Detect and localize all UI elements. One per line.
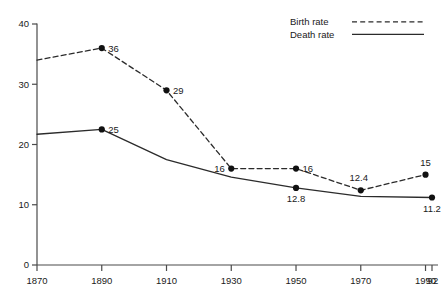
data-point-marker[interactable] — [429, 194, 435, 200]
y-tick-label: 30 — [18, 79, 29, 90]
data-point-label: 16 — [303, 163, 314, 174]
line-chart: 010203040 1870189019101930195019701990'9… — [0, 0, 448, 306]
x-tick-label: 1870 — [26, 275, 47, 286]
x-axis: 1870189019101930195019701990'92 — [26, 265, 438, 286]
x-tick-label: 1910 — [156, 275, 177, 286]
data-point-marker[interactable] — [99, 45, 105, 51]
x-tick-label: '92 — [426, 275, 438, 286]
chart-legend: Birth rateDeath rate — [290, 16, 424, 40]
data-labels-layer: 3629161612.4152512.811.2 — [108, 43, 441, 214]
data-point-label: 29 — [173, 85, 184, 96]
legend-label-death-rate: Death rate — [290, 29, 334, 40]
data-point-label: 36 — [108, 43, 119, 54]
data-point-label: 16 — [214, 163, 225, 174]
data-point-marker[interactable] — [99, 126, 105, 132]
data-point-label: 12.4 — [350, 172, 369, 183]
y-tick-label: 20 — [18, 139, 29, 150]
data-point-label: 25 — [108, 124, 119, 135]
legend-label-birth-rate: Birth rate — [290, 16, 329, 27]
y-axis: 010203040 — [18, 18, 37, 270]
series-layer — [37, 45, 435, 201]
data-point-marker[interactable] — [163, 87, 169, 93]
x-tick-label: 1970 — [350, 275, 371, 286]
x-tick-label: 1930 — [221, 275, 242, 286]
x-tick-label: 1950 — [285, 275, 306, 286]
data-point-marker[interactable] — [422, 172, 428, 178]
data-point-marker[interactable] — [228, 166, 234, 172]
data-point-marker[interactable] — [293, 185, 299, 191]
chart-canvas: 010203040 1870189019101930195019701990'9… — [0, 0, 448, 306]
y-tick-label: 0 — [24, 259, 29, 270]
data-point-label: 15 — [420, 157, 431, 168]
data-point-marker[interactable] — [358, 187, 364, 193]
data-point-marker[interactable] — [293, 166, 299, 172]
data-point-label: 12.8 — [287, 193, 306, 204]
y-tick-label: 40 — [18, 18, 29, 29]
y-tick-label: 10 — [18, 199, 29, 210]
x-tick-label: 1890 — [91, 275, 112, 286]
data-point-label: 11.2 — [423, 203, 441, 214]
